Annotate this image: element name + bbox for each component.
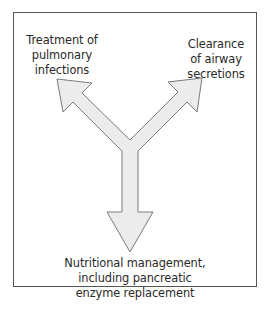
label-pulmonary-infections: Treatment of pulmonary infections: [22, 33, 102, 78]
label-line: Treatment of: [22, 33, 102, 48]
label-line: infections: [22, 63, 102, 78]
label-line: Clearance: [180, 37, 252, 52]
label-line: of airway: [180, 52, 252, 67]
three-way-arrow-shape: [57, 78, 202, 252]
label-airway-secretions: Clearance of airway secretions: [180, 37, 252, 82]
label-line: pulmonary: [22, 48, 102, 63]
label-line: enzyme replacement: [55, 286, 215, 301]
label-line: Nutritional management,: [55, 256, 215, 271]
label-line: secretions: [180, 67, 252, 82]
label-line: including pancreatic: [55, 271, 215, 286]
label-nutritional-management: Nutritional management, including pancre…: [55, 256, 215, 301]
